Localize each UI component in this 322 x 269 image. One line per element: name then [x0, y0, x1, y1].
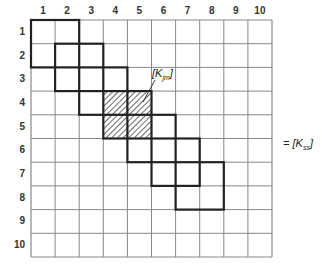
element-matrix-label: [Kjm]	[152, 67, 173, 81]
row-label-6: 6	[5, 144, 25, 156]
column-label-10: 10	[248, 5, 272, 17]
matrix-grid	[0, 0, 322, 269]
row-label-3: 3	[5, 73, 25, 85]
row-label-9: 9	[5, 215, 25, 227]
row-label-4: 4	[5, 97, 25, 109]
matrix-label-subscript: ss	[303, 144, 310, 151]
column-label-9: 9	[224, 5, 248, 17]
column-label-2: 2	[55, 5, 79, 17]
row-label-2: 2	[5, 50, 25, 62]
row-label-7: 7	[5, 168, 25, 180]
element-label-suffix: ]	[170, 67, 173, 79]
matrix-label-suffix: ]	[310, 137, 313, 149]
stiffness-matrix-diagram: 12345678910 12345678910 [Kjm] = [Kss]	[0, 0, 322, 269]
column-label-3: 3	[79, 5, 103, 17]
row-label-10: 10	[5, 239, 25, 251]
column-label-5: 5	[127, 5, 151, 17]
column-label-1: 1	[31, 5, 55, 17]
row-label-5: 5	[5, 121, 25, 133]
element-label-subscript: jm	[162, 74, 169, 81]
row-label-1: 1	[5, 26, 25, 38]
matrix-label-prefix: = [K	[283, 137, 303, 149]
row-label-8: 8	[5, 192, 25, 204]
column-label-6: 6	[152, 5, 176, 17]
column-label-8: 8	[200, 5, 224, 17]
column-label-7: 7	[176, 5, 200, 17]
column-label-4: 4	[103, 5, 127, 17]
global-matrix-label: = [Kss]	[283, 137, 313, 151]
element-label-prefix: [K	[152, 67, 162, 79]
